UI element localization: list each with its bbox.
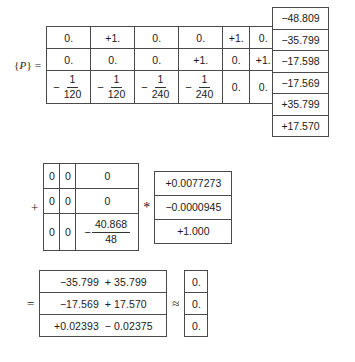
multiply-operator-2: * <box>139 201 154 215</box>
table-row: 0. <box>185 315 208 337</box>
table-row: +35.799 <box>273 94 329 116</box>
cell-r2c2: − 1 240 <box>135 71 179 104</box>
fraction: − 1 120 <box>53 74 84 99</box>
cell-r0c0: 0. <box>47 27 91 49</box>
vector-cell-3: −17.569 <box>273 72 329 94</box>
table-row: +0.02393− 0.02375 <box>40 315 167 337</box>
cell-r0c3: 0. <box>179 27 223 49</box>
table-row: 0. 0. 0. +1. 0. +1. <box>47 49 277 71</box>
table-row: −0.0000945 <box>155 195 232 219</box>
equation-figure: {P} = 0. +1. 0. 0. +1. 0. 0. 0. 0. +1. 0… <box>0 0 355 362</box>
result-matrix: −35.799+ 35.799 −17.569+ 17.570 +0.02393… <box>39 270 167 337</box>
p-vector-wrap: −48.809 −35.799 −17.598 −17.569 +35.799 … <box>272 7 329 137</box>
cell-r2c4: 0. <box>223 71 250 104</box>
table-row: −17.569 <box>273 72 329 94</box>
coef-cell-2: +1.000 <box>155 219 232 243</box>
zcell-r2c0: 0 <box>44 214 60 251</box>
approx-operator: ≈ <box>167 297 184 310</box>
zcell-r0c1: 0 <box>60 164 76 189</box>
fraction-sign: − <box>53 82 60 93</box>
zero-result-cell-2: 0. <box>185 315 208 337</box>
table-row: +1.000 <box>155 219 232 243</box>
coef-cell-0: +0.0077273 <box>155 171 232 195</box>
coefficient-vector: +0.0077273 −0.0000945 +1.000 <box>154 171 232 244</box>
result-term-1: +0.02393 <box>54 320 99 332</box>
table-row: −48.809 <box>273 8 329 30</box>
fraction-denominator: 240 <box>193 88 217 100</box>
cell-r1c0: 0. <box>47 49 91 71</box>
coef-cell-1: −0.0000945 <box>155 195 232 219</box>
fraction: − 1 240 <box>185 74 216 99</box>
zero-result-vector: 0. 0. 0. <box>184 270 208 337</box>
fraction-stack: 1 240 <box>193 74 217 99</box>
result-term-2: + 17.570 <box>99 298 147 310</box>
vector-cell-1: −35.799 <box>273 29 329 51</box>
vector-cell-2: −17.598 <box>273 51 329 73</box>
table-row: +0.0077273 <box>155 171 232 195</box>
vector-cell-4: +35.799 <box>273 94 329 116</box>
zero-result-cell-0: 0. <box>185 271 208 293</box>
fraction-denominator: 48 <box>102 233 120 245</box>
result-cell-2: +0.02393− 0.02375 <box>40 315 167 337</box>
fraction-numerator: 1 <box>111 74 123 87</box>
table-row: −35.799+ 35.799 <box>40 271 167 293</box>
table-row: 0 0 0 <box>44 189 139 214</box>
table-row: +17.570 <box>273 115 329 137</box>
equation-line-3: = −35.799+ 35.799 −17.569+ 17.570 +0.023… <box>22 270 208 337</box>
fraction-sign: − <box>185 82 192 93</box>
cell-r2c1: − 1 120 <box>91 71 135 104</box>
fraction-sign: − <box>97 82 104 93</box>
fraction-stack: 1 120 <box>61 74 85 99</box>
cell-r2c3: − 1 240 <box>179 71 223 104</box>
result-term-2: + 35.799 <box>99 276 147 288</box>
fraction: − 1 240 <box>141 74 172 99</box>
cell-r1c1: 0. <box>91 49 135 71</box>
fraction: − 1 120 <box>97 74 128 99</box>
cell-r2c0: − 1 120 <box>47 71 91 104</box>
p-symbol: P <box>19 59 26 71</box>
vector-cell-0: −48.809 <box>273 8 329 30</box>
vector-cell-5: +17.570 <box>273 115 329 137</box>
cell-r0c1: +1. <box>91 27 135 49</box>
table-row: 0. <box>185 293 208 315</box>
cell-r0c4: +1. <box>223 27 250 49</box>
zcell-r1c2: 0 <box>76 189 139 214</box>
cell-r1c2: 0. <box>135 49 179 71</box>
zero-matrix: 0 0 0 0 0 0 0 0 − 40.868 48 <box>43 163 139 251</box>
cell-r1c4: 0. <box>223 49 250 71</box>
plus-operator: + <box>26 201 43 214</box>
result-cell-1: −17.569+ 17.570 <box>40 293 167 315</box>
table-row: 0. <box>185 271 208 293</box>
fraction-numerator: 1 <box>199 74 211 87</box>
zcell-r0c2: 0 <box>76 164 139 189</box>
result-cell-0: −35.799+ 35.799 <box>40 271 167 293</box>
table-row: 0 0 0 <box>44 164 139 189</box>
table-row: −17.598 <box>273 51 329 73</box>
fraction-stack: 1 120 <box>105 74 129 99</box>
fraction-denominator: 240 <box>149 88 173 100</box>
p-matrix-label: {P} = <box>14 59 46 71</box>
fraction-denominator: 120 <box>61 88 85 100</box>
table-row: 0 0 − 40.868 48 <box>44 214 139 251</box>
equation-line-1: {P} = 0. +1. 0. 0. +1. 0. 0. 0. 0. +1. 0… <box>14 26 292 104</box>
table-row: −35.799 <box>273 29 329 51</box>
result-term-2: − 0.02375 <box>99 320 153 332</box>
result-terms: −35.799+ 35.799 <box>60 276 147 288</box>
cell-r1c3: +1. <box>179 49 223 71</box>
table-row: 0. +1. 0. 0. +1. 0. <box>47 27 277 49</box>
zcell-r0c0: 0 <box>44 164 60 189</box>
p-vector: −48.809 −35.799 −17.598 −17.569 +35.799 … <box>272 7 329 137</box>
fraction: − 40.868 48 <box>85 219 131 244</box>
zcell-r1c0: 0 <box>44 189 60 214</box>
equation-line-2: + 0 0 0 0 0 0 0 0 − 40.868 <box>26 163 232 251</box>
result-term-1: −17.569 <box>60 298 99 310</box>
fraction-numerator: 40.868 <box>92 219 130 232</box>
result-terms: +0.02393− 0.02375 <box>54 320 153 332</box>
zcell-r2c1: 0 <box>60 214 76 251</box>
fraction-sign: − <box>85 227 92 238</box>
result-term-1: −35.799 <box>60 276 99 288</box>
fraction-sign: − <box>141 82 148 93</box>
table-row: − 1 120 − 1 120 <box>47 71 277 104</box>
zero-result-cell-1: 0. <box>185 293 208 315</box>
fraction-numerator: 1 <box>155 74 167 87</box>
